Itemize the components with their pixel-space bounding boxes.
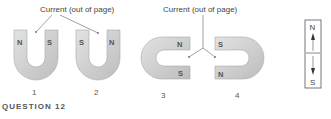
magnet-4: S N 4	[215, 37, 264, 100]
question-label: QUESTION 12	[2, 102, 66, 111]
leader-line-5	[203, 48, 215, 57]
compass-box: N S	[305, 20, 321, 88]
magnet-3: N S 3	[141, 37, 190, 100]
compass-south-label: S	[310, 78, 315, 87]
pole-label: N	[17, 38, 22, 47]
pole-label: N	[109, 38, 114, 47]
pole-label: S	[178, 69, 183, 78]
leader-line-4	[189, 48, 203, 57]
current-dot-4	[214, 56, 216, 58]
magnet-number: 3	[161, 91, 166, 100]
leader-line-1	[36, 15, 52, 32]
pole-label: S	[47, 38, 52, 47]
current-dot-3	[188, 56, 190, 58]
current-dot-2	[97, 32, 99, 34]
pole-label: S	[79, 38, 84, 47]
magnet-1: N S 1	[14, 30, 58, 97]
pole-label: S	[218, 40, 223, 49]
compass-north-label: N	[310, 23, 316, 32]
magnet-2: S N 2	[76, 30, 120, 97]
pole-label: N	[218, 70, 223, 79]
magnet-number: 1	[32, 88, 37, 97]
magnet-number: 2	[94, 88, 99, 97]
magnet-number: 4	[235, 91, 240, 100]
current-caption-right: Current (out of page)	[163, 5, 238, 14]
current-caption-left: Current (out of page)	[40, 5, 115, 14]
pole-label: N	[177, 40, 182, 49]
current-dot-1	[35, 31, 37, 33]
